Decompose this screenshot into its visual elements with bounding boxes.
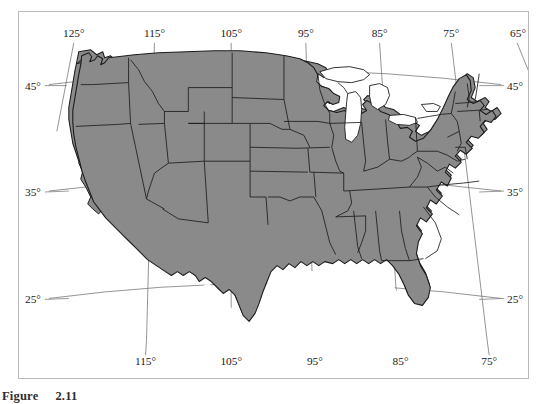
label-lat-35-left: 35° <box>25 186 41 198</box>
border-mi-up <box>338 83 348 94</box>
label-lon-75-bottom: 75° <box>481 355 497 367</box>
label-lon-115: 115° <box>144 27 165 39</box>
label-lon-75: 75° <box>443 27 459 39</box>
meridian-65 <box>517 43 528 82</box>
label-lat-25-right: 25° <box>507 293 523 305</box>
figure-page: 125° 115° 105° 95° 85° 75° 65° 115° 105°… <box>0 0 547 404</box>
label-lon-95-bottom: 95° <box>307 355 323 367</box>
label-lat-35-right: 35° <box>507 186 523 198</box>
label-lon-85-bottom: 85° <box>393 355 409 367</box>
label-lon-95: 95° <box>298 27 314 39</box>
label-lon-125: 125° <box>63 27 85 39</box>
lake-superior <box>320 67 370 83</box>
label-lon-65: 65° <box>510 27 526 39</box>
us-map-svg: 125° 115° 105° 95° 85° 75° 65° 115° 105°… <box>19 12 528 378</box>
label-lon-85: 85° <box>372 27 388 39</box>
leader-lat-35-left <box>45 191 69 192</box>
parallel-labels-right: 45° 35° 25° <box>507 80 523 306</box>
lake-ontario <box>421 104 440 112</box>
lake-huron <box>370 84 390 110</box>
label-lon-105-bottom: 105° <box>220 355 242 367</box>
label-lat-45-right: 45° <box>507 80 523 92</box>
parallel-labels-left: 45° 35° 25° <box>25 80 41 306</box>
label-lat-45-left: 45° <box>25 80 41 92</box>
map-frame: 125° 115° 105° 95° 85° 75° 65° 115° 105°… <box>18 11 529 379</box>
figure-caption-label: Figure <box>2 389 38 403</box>
figure-caption: Figure2.11 <box>2 389 77 404</box>
label-lon-115-bottom: 115° <box>135 355 156 367</box>
leader-lat-35-right <box>479 191 504 192</box>
border-nh-me <box>475 74 479 100</box>
leader-lat-25-right <box>479 298 504 299</box>
figure-caption-number: 2.11 <box>55 389 77 403</box>
meridian-labels-top: 125° 115° 105° 95° 85° 75° 65° <box>63 27 526 39</box>
label-lon-105: 105° <box>220 27 242 39</box>
gulf-coast-water <box>168 270 417 378</box>
leader-lat-25-left <box>45 298 69 299</box>
label-lat-25-left: 25° <box>25 293 41 305</box>
